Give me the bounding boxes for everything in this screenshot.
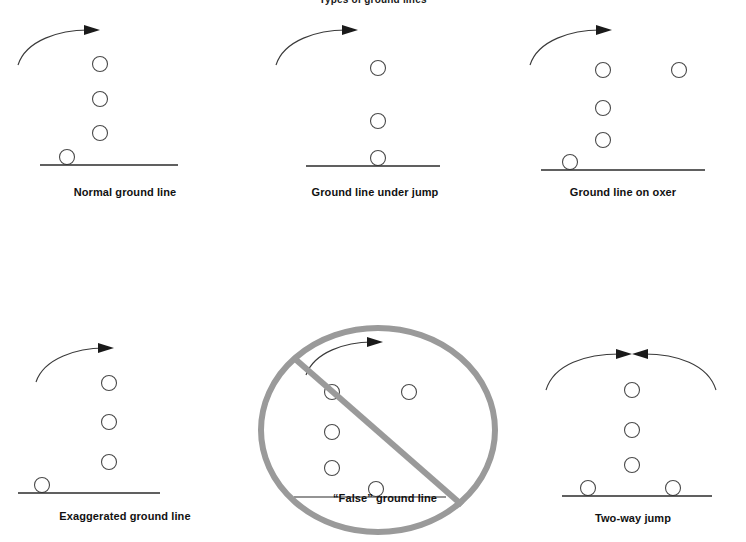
panel-exaggerated-ground-line: Exaggerated ground line bbox=[0, 340, 250, 530]
panel-two-way-jump: Two-way jump bbox=[520, 340, 746, 530]
rail-circle bbox=[625, 458, 640, 473]
ground-line-circle bbox=[563, 155, 578, 170]
approach-arrow-head-left bbox=[616, 349, 632, 359]
rail-circle bbox=[325, 461, 340, 476]
approach-arrow-path bbox=[530, 30, 600, 65]
ground-line-circle bbox=[371, 151, 386, 166]
rail-circle bbox=[325, 425, 340, 440]
oxer-back-rail-circle bbox=[402, 385, 417, 400]
diagram-normal-ground-line bbox=[0, 20, 250, 180]
panel-normal-ground-line: Normal ground line bbox=[0, 20, 250, 210]
approach-arrow-head bbox=[342, 25, 358, 35]
approach-arrow-path-left bbox=[546, 354, 620, 390]
rail-circle bbox=[93, 92, 108, 107]
ground-line-circle-left bbox=[581, 481, 596, 496]
rail-circle bbox=[102, 415, 117, 430]
approach-arrow-head bbox=[596, 25, 612, 35]
figure-canvas: Types of ground lines Normal ground line… bbox=[0, 0, 746, 542]
panel-caption-ground-line-under-jump: Ground line under jump bbox=[250, 186, 500, 198]
panel-ground-line-on-oxer: Ground line on oxer bbox=[500, 20, 746, 210]
panel-caption-two-way-jump: Two-way jump bbox=[520, 512, 746, 524]
rail-circle bbox=[102, 455, 117, 470]
rail-circle bbox=[93, 126, 108, 141]
oxer-back-rail-circle bbox=[672, 63, 687, 78]
ground-line-circle bbox=[35, 478, 50, 493]
rail-circle bbox=[596, 63, 611, 78]
diagram-two-way-jump bbox=[520, 340, 746, 510]
prohibition-slash-icon bbox=[294, 358, 462, 505]
ground-line-circle-right bbox=[666, 481, 681, 496]
panel-caption-ground-line-on-oxer: Ground line on oxer bbox=[500, 186, 746, 198]
diagram-exaggerated-ground-line bbox=[0, 340, 250, 500]
approach-arrow-head bbox=[98, 343, 114, 353]
panel-caption-exaggerated-ground-line: Exaggerated ground line bbox=[0, 510, 250, 522]
panel-caption-normal-ground-line: Normal ground line bbox=[0, 186, 250, 198]
approach-arrow-head bbox=[367, 337, 383, 347]
diagram-false-ground-line bbox=[250, 320, 520, 542]
approach-arrow-path bbox=[36, 348, 104, 382]
approach-arrow-head-right bbox=[632, 349, 648, 359]
approach-arrow-path-right bbox=[644, 354, 716, 390]
ground-line-circle bbox=[60, 150, 75, 165]
panel-false-ground-line: “False” ground line bbox=[250, 320, 520, 542]
rail-circle bbox=[93, 57, 108, 72]
rail-circle bbox=[625, 423, 640, 438]
panel-caption-false-ground-line: “False” ground line bbox=[250, 492, 520, 504]
rail-circle bbox=[596, 101, 611, 116]
diagram-ground-line-on-oxer bbox=[500, 20, 746, 180]
rail-circle bbox=[371, 61, 386, 76]
panel-ground-line-under-jump: Ground line under jump bbox=[250, 20, 500, 210]
figure-title: Types of ground lines bbox=[0, 0, 746, 5]
rail-circle bbox=[371, 114, 386, 129]
diagram-ground-line-under-jump bbox=[250, 20, 500, 180]
approach-arrow-head bbox=[84, 25, 100, 35]
approach-arrow-path bbox=[276, 30, 346, 65]
rail-circle bbox=[596, 133, 611, 148]
rail-circle bbox=[625, 383, 640, 398]
rail-circle bbox=[102, 376, 117, 391]
approach-arrow-path bbox=[18, 30, 88, 65]
